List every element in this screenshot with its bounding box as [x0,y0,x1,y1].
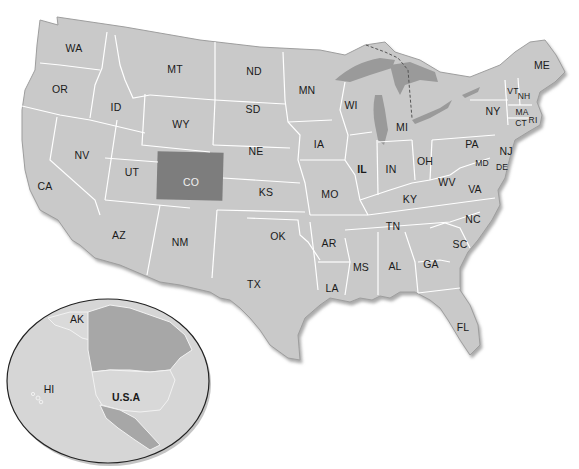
state-label-ks: KS [259,186,273,198]
state-label-il: IL [357,163,367,175]
state-label-ca: CA [38,180,53,192]
state-label-ma: MA [515,107,528,117]
state-label-tx: TX [247,278,261,290]
state-label-ar: AR [322,237,337,249]
state-label-ok: OK [270,230,286,242]
state-label-va: VA [468,183,482,195]
state-label-nh: NH [518,91,531,101]
state-label-fl: FL [457,321,470,333]
state-label-ga: GA [423,258,439,270]
state-label-az: AZ [112,229,126,241]
state-label-id: ID [111,101,122,113]
state-label-la: LA [325,282,338,294]
map-svg [0,0,579,469]
state-label-pa: PA [465,138,479,150]
state-label-ms: MS [353,261,369,273]
state-label-oh: OH [417,155,433,167]
inset-label-usa: U.S.A [112,391,140,403]
state-label-nj: NJ [499,145,512,157]
state-label-or: OR [52,83,68,95]
inset-globe [7,299,211,466]
state-label-in: IN [386,163,397,175]
usa-map: WAORIDMTWYNVUTCAAZNMCONDSDNEKSOKTXMNIAMO… [0,0,579,469]
state-label-ia: IA [314,138,324,150]
state-label-ny: NY [486,105,501,117]
state-label-nm: NM [172,236,189,248]
state-label-wv: WV [438,176,455,188]
inset-label-hi: HI [44,383,55,395]
state-label-mn: MN [299,84,316,96]
state-label-me: ME [534,59,550,71]
state-label-ut: UT [125,166,139,178]
state-label-ri: RI [529,115,538,125]
state-label-wy: WY [172,118,189,130]
state-label-co: CO [183,176,199,188]
state-label-de: DE [496,162,508,172]
state-label-al: AL [388,260,401,272]
state-label-sd: SD [246,103,261,115]
state-label-ne: NE [249,145,264,157]
state-label-sc: SC [453,238,468,250]
state-label-wa: WA [66,42,83,54]
state-label-mi: MI [396,121,408,133]
state-label-mt: MT [167,63,183,75]
state-label-md: MD [475,158,489,168]
state-label-tn: TN [386,220,400,232]
state-label-ct: CT [515,118,527,128]
state-label-nv: NV [75,149,90,161]
state-label-nc: NC [465,213,481,225]
state-label-nd: ND [246,65,262,77]
inset-label-ak: AK [70,313,84,325]
state-label-mo: MO [321,188,338,200]
state-label-ky: KY [403,193,417,205]
state-label-wi: WI [344,99,357,111]
